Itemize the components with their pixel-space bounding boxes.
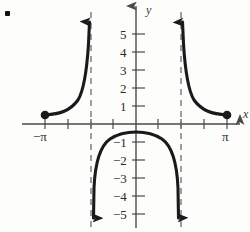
y-tick-label-neg5: −5 bbox=[113, 208, 127, 221]
curve-left-upper bbox=[45, 22, 90, 115]
y-tick-label-2: 2 bbox=[120, 82, 127, 95]
figure-canvas: 5 4 3 2 1 −1 −2 −3 −4 −5 −π π y x bbox=[0, 0, 250, 232]
x-axis-label: x bbox=[243, 108, 248, 120]
x-axis bbox=[22, 119, 240, 129]
y-tick-label-neg4: −4 bbox=[113, 190, 127, 203]
endpoint-dot-right bbox=[223, 111, 232, 120]
x-tick-label-neg-pi: −π bbox=[33, 130, 47, 143]
y-axis-label: y bbox=[146, 4, 151, 16]
y-tick-label-neg3: −3 bbox=[113, 172, 127, 185]
y-tick-label-1: 1 bbox=[120, 100, 127, 113]
endpoint-dot-left bbox=[41, 111, 50, 120]
x-tick-label-pi: π bbox=[222, 130, 229, 143]
y-tick-label-4: 4 bbox=[120, 46, 127, 59]
y-tick-label-3: 3 bbox=[120, 64, 127, 77]
y-tick-label-neg1: −1 bbox=[113, 136, 127, 149]
y-tick-label-neg2: −2 bbox=[113, 154, 127, 167]
y-axis bbox=[132, 6, 145, 228]
curve-right-upper bbox=[183, 22, 228, 115]
y-tick-label-5: 5 bbox=[120, 28, 127, 41]
